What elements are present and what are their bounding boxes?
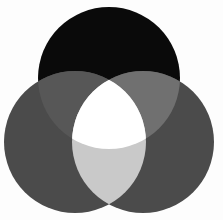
venn-diagram-svg — [0, 0, 223, 220]
venn-diagram — [0, 0, 223, 220]
